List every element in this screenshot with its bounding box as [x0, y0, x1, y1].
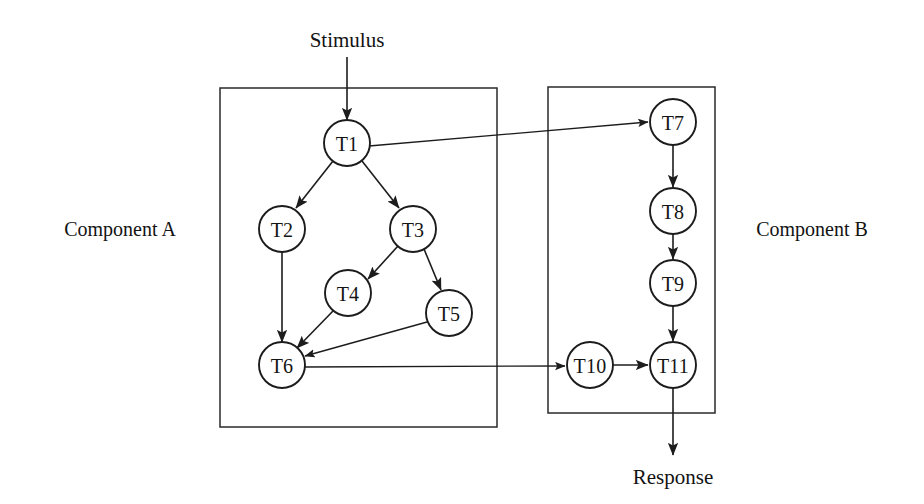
node-t1[interactable]: T1 [324, 120, 370, 166]
node-label-t5: T5 [438, 303, 461, 325]
node-t7[interactable]: T7 [650, 99, 696, 145]
node-label-t2: T2 [271, 219, 294, 241]
node-t11[interactable]: T11 [650, 342, 696, 388]
node-t8[interactable]: T8 [650, 188, 696, 234]
nodes-layer: T1T2T3T4T5T6T7T8T9T10T11 [259, 99, 696, 388]
node-label-t8: T8 [662, 201, 685, 223]
node-t4[interactable]: T4 [325, 270, 371, 316]
node-label-t6: T6 [271, 355, 294, 377]
edges-layer [282, 57, 673, 455]
node-label-t11: T11 [657, 355, 689, 377]
edge-T1-to-T2 [296, 161, 333, 208]
diagram-root: T1T2T3T4T5T6T7T8T9T10T11 Stimulus Respon… [0, 0, 924, 504]
node-t9[interactable]: T9 [650, 260, 696, 306]
edge-T3-to-T5 [424, 249, 441, 290]
component-label-b: Component B [756, 218, 868, 241]
node-t2[interactable]: T2 [259, 206, 305, 252]
node-t10[interactable]: T10 [567, 342, 613, 388]
edge-T5-to-T6 [305, 322, 427, 356]
stimulus-label: Stimulus [310, 28, 385, 52]
edge-T1-to-T7 [369, 122, 648, 146]
diagram-canvas: T1T2T3T4T5T6T7T8T9T10T11 Stimulus Respon… [0, 0, 924, 504]
labels-layer: Stimulus Response Component AComponent B [64, 28, 868, 489]
node-t5[interactable]: T5 [426, 290, 472, 336]
component-label-a: Component A [64, 218, 176, 241]
node-t6[interactable]: T6 [259, 342, 305, 388]
node-label-t10: T10 [574, 355, 607, 377]
edge-T1-to-T3 [362, 161, 399, 208]
edge-T3-to-T4 [368, 246, 398, 279]
edge-T4-to-T6 [297, 311, 333, 348]
response-label: Response [633, 465, 714, 489]
node-label-t1: T1 [336, 133, 359, 155]
node-label-t4: T4 [337, 283, 360, 305]
edge-T6-to-T10 [305, 366, 565, 367]
node-label-t9: T9 [662, 273, 685, 295]
node-t3[interactable]: T3 [390, 206, 436, 252]
node-label-t3: T3 [402, 219, 425, 241]
node-label-t7: T7 [662, 112, 685, 134]
